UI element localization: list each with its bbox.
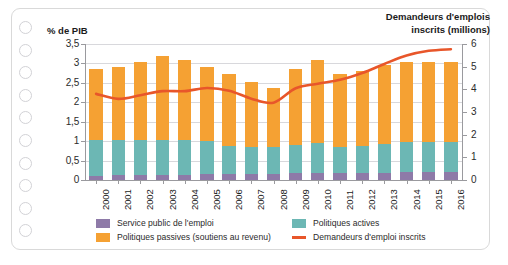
punch-hole (19, 21, 32, 34)
legend-label: Demandeurs d'emploi inscrits (313, 232, 425, 242)
y-axis-left-tick-label: 0,5 (45, 155, 79, 166)
legend-line-swatch (292, 236, 306, 239)
x-axis-tick (318, 180, 319, 184)
punch-hole (19, 224, 32, 237)
punch-hole (19, 44, 32, 57)
right-axis-title: Demandeurs d'emplois inscrits (millions) (386, 11, 490, 36)
x-axis-tick (207, 180, 208, 184)
y-axis-left-tick-label: 2,5 (45, 77, 79, 88)
x-axis-tick-label: 2016 (455, 189, 466, 210)
x-axis-tick (296, 180, 297, 184)
punch-hole (19, 179, 32, 192)
legend-label: Service public de l'emploi (117, 218, 214, 228)
punch-hole (19, 134, 32, 147)
x-axis-tick (384, 180, 385, 184)
x-axis-tick (429, 180, 430, 184)
x-axis-tick-label: 2009 (300, 189, 311, 210)
legend-item[interactable]: Demandeurs d'emploi inscrits (292, 232, 425, 242)
x-axis-tick-label: 2014 (411, 189, 422, 210)
y-axis-left-tick-label: 3 (45, 57, 79, 68)
left-axis-title: % de PIB (47, 25, 88, 36)
y-axis-left-tick-label: 0 (45, 174, 79, 185)
x-axis-tick-label: 2000 (100, 189, 111, 210)
x-axis-tick-label: 2006 (233, 189, 244, 210)
line-series-overlay (85, 44, 462, 180)
y-axis-left-tick-label: 2 (45, 96, 79, 107)
y-axis-left-tick-label: 1,5 (45, 116, 79, 127)
x-axis-tick (362, 180, 363, 184)
punch-hole (19, 66, 32, 79)
demandeurs-line (96, 49, 451, 103)
x-axis-tick (340, 180, 341, 184)
x-axis-tick (251, 180, 252, 184)
x-axis-tick (185, 180, 186, 184)
x-axis-tick (140, 180, 141, 184)
legend-label: Politiques actives (313, 218, 379, 228)
legend-item[interactable]: Politiques actives (292, 218, 379, 228)
x-axis-tick-label: 2008 (278, 189, 289, 210)
x-axis-tick (407, 180, 408, 184)
x-axis-tick (163, 180, 164, 184)
right-axis-title-line1: Demandeurs d'emplois (386, 11, 490, 22)
x-axis-tick-label: 2013 (388, 189, 399, 210)
x-axis-tick-label: 2007 (255, 189, 266, 210)
x-axis-tick-label: 2012 (366, 189, 377, 210)
x-axis-tick-label: 2004 (189, 189, 200, 210)
punch-hole (19, 202, 32, 215)
punch-hole (19, 157, 32, 170)
y-axis-right-tick-label: 1 (471, 151, 495, 162)
x-axis-tick-label: 2001 (122, 189, 133, 210)
y-axis-right-tick-label: 5 (471, 61, 495, 72)
y-axis-left-tick-label: 1 (45, 135, 79, 146)
chart-card-root: % de PIB Demandeurs d'emplois inscrits (… (0, 0, 508, 265)
legend-color-swatch (292, 219, 306, 228)
punch-hole (19, 89, 32, 102)
x-axis-tick (118, 180, 119, 184)
legend-item[interactable]: Service public de l'emploi (96, 218, 214, 228)
x-axis-tick-label: 2005 (211, 189, 222, 210)
punch-hole (19, 111, 32, 124)
x-axis-tick (274, 180, 275, 184)
chart-legend: Service public de l'emploiPolitiques pas… (96, 218, 484, 248)
x-axis-tick-label: 2015 (433, 189, 444, 210)
y-axis-right-tick-label: 0 (471, 174, 495, 185)
x-axis-tick-label: 2003 (167, 189, 178, 210)
legend-color-swatch (96, 219, 110, 228)
legend-color-swatch (96, 233, 110, 242)
y-axis-right-tick-label: 4 (471, 83, 495, 94)
x-axis-tick (229, 180, 230, 184)
legend-item[interactable]: Politiques passives (soutiens au revenu) (96, 232, 271, 242)
right-axis-title-line2: inscrits (millions) (411, 24, 490, 35)
x-axis-tick-label: 2010 (322, 189, 333, 210)
y-axis-left-tick-label: 3,5 (45, 38, 79, 49)
y-axis-right-line (462, 44, 463, 180)
x-axis-tick (451, 180, 452, 184)
plot-area (85, 44, 462, 180)
punch-hole-strip (19, 21, 43, 237)
y-axis-right-tick-label: 6 (471, 38, 495, 49)
x-axis-tick-label: 2011 (344, 190, 355, 210)
legend-label: Politiques passives (soutiens au revenu) (117, 232, 271, 242)
y-axis-right-tick-label: 3 (471, 106, 495, 117)
x-axis-tick (96, 180, 97, 184)
x-axis-tick-label: 2002 (144, 189, 155, 210)
y-axis-right-tick-label: 2 (471, 129, 495, 140)
